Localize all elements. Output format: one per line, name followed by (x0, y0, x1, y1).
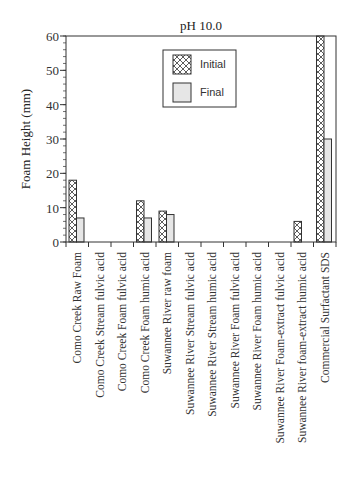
x-tick-label: Como Creek Raw Foam (71, 252, 83, 364)
legend-label-initial: Initial (200, 58, 226, 70)
x-tick-label: Suwannee River raw foam (161, 252, 173, 374)
bar-initial (69, 180, 77, 242)
bar-final (324, 139, 332, 242)
y-tick-label: 20 (46, 166, 59, 181)
bar-initial (317, 36, 325, 242)
legend: Initial Final (163, 50, 236, 107)
legend-swatch-initial (173, 55, 191, 74)
legend-label-final: Final (200, 86, 224, 98)
bar-initial (159, 211, 167, 242)
y-tick-label: 30 (46, 132, 59, 147)
y-axis-label: Foam Height (mm) (18, 89, 33, 189)
y-tick-label: 10 (46, 201, 59, 216)
bar-chart: pH 10.0 Foam Height (mm) 0102030405060 C… (0, 0, 353, 491)
x-tick-label: Suwannee River Foam fulvic acid (229, 252, 241, 409)
x-tick-label: Suwannee River Foam-extract fulvic acid (274, 252, 286, 444)
x-tick-label: Suwannee River foam-extract humic acid (296, 252, 308, 443)
bar-final (144, 218, 152, 242)
bar-final (167, 215, 175, 242)
x-tick-label: Como Creek Foam humic acid (139, 252, 151, 393)
y-tick-label: 0 (53, 235, 60, 250)
x-tick-label: Commercial Surfactant SDS (319, 252, 331, 383)
chart-title: pH 10.0 (180, 18, 222, 33)
x-tick-label: Suwannee River Stream humic acid (206, 252, 218, 417)
bar-final (77, 218, 85, 242)
y-tick-label: 40 (46, 98, 59, 113)
legend-swatch-final (173, 83, 191, 102)
x-tick-label: Suwannee River Stream fulvic acid (184, 252, 196, 415)
x-tick-label: Como Creek Foam fulvic acid (116, 252, 128, 391)
x-tick-label: Suwannee River Foam humic acid (251, 252, 263, 411)
bar-initial (137, 201, 145, 242)
y-tick-label: 60 (46, 29, 59, 44)
y-tick-label: 50 (46, 63, 59, 78)
x-tick-label: Como Creek Stream fulvic acid (94, 252, 106, 398)
bar-initial (294, 221, 302, 242)
